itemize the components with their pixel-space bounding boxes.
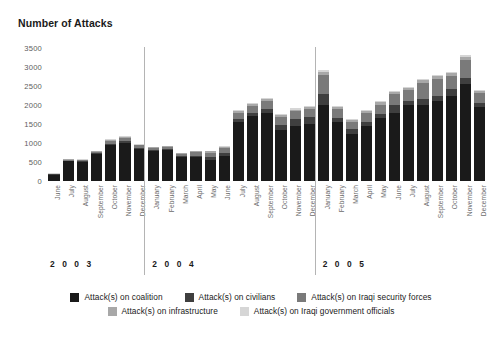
stacked-bar[interactable] — [190, 151, 201, 181]
x-axis-slot: March — [175, 183, 189, 251]
x-axis-label-21: March — [352, 185, 359, 204]
stacked-bar[interactable] — [432, 75, 443, 181]
x-axis-slot: January — [317, 183, 331, 251]
bar-slot — [161, 48, 175, 181]
x-axis-label-15: September — [267, 185, 274, 218]
x-axis-label-7: January — [153, 185, 160, 209]
bar-slot — [288, 48, 302, 181]
stacked-bar[interactable] — [91, 151, 102, 181]
x-axis-slot: November — [458, 183, 472, 251]
stacked-bar[interactable] — [119, 136, 130, 181]
stacked-bar[interactable] — [205, 151, 216, 181]
bar-slot — [118, 48, 132, 181]
stacked-bar[interactable] — [446, 72, 457, 181]
legend-item[interactable]: Attack(s) on civilians — [185, 292, 276, 302]
legend-item[interactable]: Attack(s) on infrastructure — [108, 306, 218, 316]
year-divider-2005 — [315, 47, 316, 275]
stacked-bar[interactable] — [176, 153, 187, 182]
x-axis-label-23: May — [380, 185, 387, 198]
x-axis-slot: November — [288, 183, 302, 251]
x-axis-slot: July — [61, 183, 75, 251]
bar-segment-0 — [389, 113, 400, 181]
bar-segment-0 — [417, 105, 428, 181]
bar-segment-2 — [460, 60, 471, 78]
y-axis-tick-3000: 3000 — [24, 63, 42, 72]
x-axis-label-26: August — [423, 185, 430, 206]
x-axis-slot: April — [359, 183, 373, 251]
plot-area — [47, 48, 487, 181]
stacked-bar[interactable] — [318, 70, 329, 181]
stacked-bar[interactable] — [219, 146, 230, 181]
bar-segment-0 — [205, 160, 216, 181]
x-axis-label-22: April — [366, 185, 373, 199]
stacked-bar[interactable] — [77, 159, 88, 181]
bar-segment-0 — [346, 134, 357, 182]
legend-item[interactable]: Attack(s) on Iraqi government officials — [240, 306, 395, 316]
bar-slot — [317, 48, 331, 181]
legend-swatch-icon — [297, 293, 306, 302]
stacked-bar[interactable] — [134, 144, 145, 181]
stacked-bar[interactable] — [417, 79, 428, 181]
stacked-bar[interactable] — [233, 110, 244, 181]
bar-segment-2 — [417, 83, 428, 99]
bar-slot — [231, 48, 245, 181]
x-axis-slot: June — [47, 183, 61, 251]
y-axis-tick-3500: 3500 — [24, 44, 42, 53]
x-axis-label-1: July — [68, 185, 75, 197]
bar-segment-0 — [134, 149, 145, 181]
legend-item[interactable]: Attack(s) on coalition — [70, 292, 162, 302]
bar-segment-0 — [361, 126, 372, 181]
stacked-bar[interactable] — [304, 106, 315, 181]
stacked-bar[interactable] — [48, 173, 59, 181]
stacked-bar[interactable] — [275, 114, 286, 181]
x-axis-slot: December — [473, 183, 487, 251]
bar-segment-2 — [432, 79, 443, 96]
stacked-bar[interactable] — [162, 146, 173, 181]
x-axis-label-9: March — [182, 185, 189, 204]
stacked-bar[interactable] — [375, 101, 386, 181]
stacked-bar[interactable] — [389, 91, 400, 181]
x-axis-slot: January — [146, 183, 160, 251]
x-axis-label-3: September — [97, 185, 104, 218]
x-axis-label-27: September — [437, 185, 444, 218]
legend-row-1: Attack(s) on coalitionAttack(s) on civil… — [0, 292, 502, 302]
y-axis-tick-2500: 2500 — [24, 82, 42, 91]
year-divider-2004 — [144, 47, 145, 275]
legend-swatch-icon — [185, 293, 194, 302]
stacked-bar[interactable] — [474, 90, 485, 181]
stacked-bar[interactable] — [247, 103, 258, 181]
legend-item[interactable]: Attack(s) on Iraqi security forces — [297, 292, 431, 302]
bar-segment-2 — [446, 76, 457, 89]
bar-segment-2 — [346, 122, 357, 130]
x-axis-label-19: January — [324, 185, 331, 209]
x-axis-slot: April — [189, 183, 203, 251]
x-axis-slot: September — [90, 183, 104, 251]
bar-slot — [203, 48, 217, 181]
bar-segment-0 — [148, 151, 159, 181]
legend-label: Attack(s) on coalition — [84, 292, 162, 302]
stacked-bar[interactable] — [361, 110, 372, 181]
x-axis-slot: October — [274, 183, 288, 251]
x-axis-slot: October — [444, 183, 458, 251]
stacked-bar[interactable] — [148, 147, 159, 181]
x-axis-label-4: October — [111, 185, 118, 209]
stacked-bar[interactable] — [105, 139, 116, 181]
stacked-bar[interactable] — [332, 106, 343, 181]
stacked-bar[interactable] — [63, 159, 74, 181]
x-axis-label-29: November — [466, 185, 473, 216]
bar-segment-1 — [389, 105, 400, 112]
bar-segment-0 — [176, 157, 187, 181]
bar-slot — [373, 48, 387, 181]
stacked-bar[interactable] — [460, 55, 471, 181]
bar-segment-0 — [119, 143, 130, 181]
stacked-bar[interactable] — [346, 119, 357, 181]
bar-slot — [444, 48, 458, 181]
stacked-bar[interactable] — [290, 108, 301, 181]
stacked-bar[interactable] — [261, 98, 272, 181]
stacked-bar[interactable] — [403, 87, 414, 181]
bar-segment-2 — [318, 75, 329, 93]
bar-slot — [402, 48, 416, 181]
bar-slot — [416, 48, 430, 181]
legend-swatch-icon — [70, 293, 79, 302]
bar-slot — [430, 48, 444, 181]
